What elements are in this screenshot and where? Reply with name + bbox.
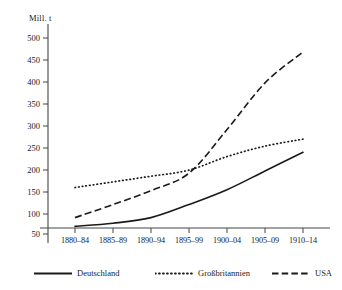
legend-label-grossbritannien: Großbritannien	[198, 268, 250, 278]
legend-swatch-dotted-icon	[155, 269, 193, 278]
chart-legend: Deutschland Großbritannien USA	[0, 264, 342, 282]
series-line-deutschland	[75, 152, 303, 226]
series-line-grossbritannien	[75, 139, 303, 187]
legend-item-usa: USA	[272, 264, 332, 282]
y-axis-ticks	[43, 38, 48, 234]
chart-container: Mill. t 500 450 400 350 300 250 200 150 …	[0, 0, 342, 290]
legend-label-usa: USA	[315, 268, 332, 278]
legend-item-grossbritannien: Großbritannien	[155, 264, 250, 282]
series-line-usa	[75, 52, 303, 218]
x-axis-ticks	[75, 228, 303, 233]
legend-swatch-dashed-icon	[272, 269, 310, 278]
legend-item-deutschland: Deutschland	[34, 264, 120, 282]
plot-area	[0, 0, 342, 290]
line-chart-figure: Mill. t 500 450 400 350 300 250 200 150 …	[0, 0, 342, 290]
x-tick-label-1910-14: 1910–14	[279, 236, 327, 245]
legend-swatch-solid-icon	[34, 269, 72, 278]
legend-label-deutschland: Deutschland	[77, 268, 120, 278]
